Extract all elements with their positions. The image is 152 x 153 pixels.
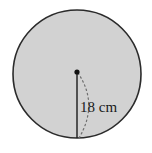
geometry-figure-container: 18 cm [0,0,152,153]
circle-radius-diagram: 18 cm [0,0,152,153]
radius-measure-label: 18 cm [80,99,117,115]
center-dot [74,69,79,74]
